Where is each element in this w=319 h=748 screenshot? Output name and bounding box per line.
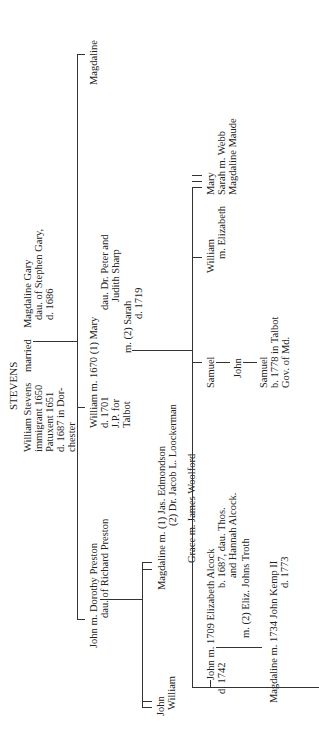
- connector-line: [77, 54, 85, 55]
- husband-detail: immigrant 1650: [33, 383, 44, 452]
- john-children-bar: [142, 563, 143, 708]
- connector-line: [132, 350, 192, 351]
- husband-detail: d. 1687 in Dor-: [55, 383, 66, 452]
- connector-line: [192, 187, 202, 188]
- connector-line: [77, 407, 85, 408]
- wife-name: Magdaline Gary: [22, 229, 33, 328]
- wife-detail: d. 1686: [44, 229, 55, 328]
- magdaline-edmondson-entry: Magdaline m. (1) Jas. Edmondson (2) Dr. …: [156, 404, 178, 590]
- john-child-william: William: [166, 676, 177, 710]
- william-children-bar: [192, 188, 193, 688]
- connector-line: [142, 701, 152, 702]
- chart-title: STEVENS: [8, 362, 19, 410]
- john-dorothy-entry: John m. Dorothy Preston dau. of Richard …: [88, 519, 110, 648]
- john-name: John m. 1709 Elizabeth Alcock: [205, 548, 216, 680]
- wife2-detail: d. 1719: [133, 288, 144, 354]
- magdaline-spouse2: (2) Dr. Jacob L. Loockerman: [167, 404, 178, 590]
- magdaline-gary-entry: Magdaline Gary dau. of Stephen Gary, d. …: [22, 229, 55, 328]
- john-child-john: John: [155, 696, 166, 716]
- magdaline-daughter-entry: Magdaline: [88, 40, 99, 85]
- samuel-detail: Gov. of Md.: [280, 317, 291, 388]
- eliz-troth-entry: m. (2) Eliz. Johns Troth: [240, 538, 251, 638]
- connector-line: [142, 569, 152, 570]
- connector-line: [33, 341, 77, 342]
- samuel-entry: Samuel: [205, 357, 216, 389]
- william-detail: d. 1701: [99, 317, 110, 428]
- john-wife-detail: dau. of Richard Preston: [99, 519, 110, 648]
- wife-detail: dau. Dr. Peter and: [99, 234, 110, 310]
- william-stevens-entry: William Stevens immigrant 1650 Patuxent …: [22, 383, 77, 452]
- connector-line: [142, 562, 152, 563]
- wife-detail: Judith Sharp: [110, 234, 121, 310]
- connector-line: [192, 687, 319, 688]
- connector-line: [192, 175, 202, 176]
- connector-line: [192, 181, 202, 182]
- husband-name: William Stevens: [22, 383, 33, 452]
- connector-line: [142, 707, 152, 708]
- magdaline-kemp-entry: Magdaline m. 1734 John Kemp II d. 1773: [268, 557, 290, 704]
- married-label: married: [22, 339, 33, 372]
- connector-line: [210, 680, 211, 688]
- connector-line: [192, 362, 202, 363]
- connector-line: [77, 619, 85, 620]
- connector-line: [100, 599, 142, 600]
- wife2-name: m. (2) Sarah: [122, 288, 133, 354]
- magdaline-name: Magdaline m. (1) Jas. Edmondson: [156, 404, 167, 590]
- connector-line: [216, 647, 262, 648]
- samuel-name: Samuel: [258, 317, 269, 388]
- magdaline-name: Magdaline m. 1734 John Kemp II: [268, 557, 279, 704]
- mary-entry: Mary: [205, 172, 216, 195]
- john-name: John m. Dorothy Preston: [88, 519, 99, 648]
- connector-line: [243, 362, 257, 363]
- samuel-detail: b. 1778 in Talbot: [269, 317, 280, 388]
- magdaline-maude-entry: Magdaline Maude: [227, 118, 238, 195]
- connector-line: [216, 362, 230, 363]
- connector-line: [192, 257, 202, 258]
- william-name: William: [205, 206, 216, 273]
- husband-detail: chester: [66, 383, 77, 452]
- william-detail: m. Elizabeth: [216, 206, 227, 273]
- elizabeth-alcock-detail: b. 1687, dau. Thos. and Hannah Alcock.: [216, 493, 238, 588]
- wife-detail: b. 1687, dau. Thos.: [216, 493, 227, 588]
- william-name: William m. 1670 (1) Mary: [88, 317, 99, 428]
- william-elizabeth-entry: William m. Elizabeth: [205, 206, 227, 273]
- sarah-entry: m. (2) Sarah d. 1719: [122, 288, 144, 354]
- william-detail: J.P. for: [110, 317, 121, 428]
- generation2-bar: [77, 55, 78, 620]
- kemp-detail: d. 1773: [279, 557, 290, 704]
- husband-detail: Patuxent 1651: [44, 383, 55, 452]
- genealogy-chart: STEVENS William Stevens immigrant 1650 P…: [0, 0, 319, 748]
- john-son-of-samuel: John: [232, 358, 243, 378]
- sarah-webb-entry: Sarah m. Webb: [216, 131, 227, 195]
- wife-detail: dau. of Stephen Gary,: [33, 229, 44, 328]
- wife-detail: and Hannah Alcock.: [227, 493, 238, 588]
- mary-sharp-detail: dau. Dr. Peter and Judith Sharp: [99, 234, 121, 310]
- samuel-governor-entry: Samuel b. 1778 in Talbot Gov. of Md.: [258, 317, 291, 388]
